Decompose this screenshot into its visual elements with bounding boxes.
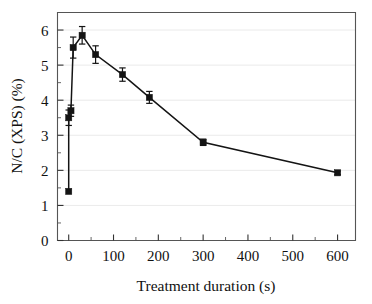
series-line	[69, 35, 338, 191]
x-tick-label: 400	[237, 248, 260, 264]
data-point-marker	[68, 108, 74, 114]
x-tick-label: 600	[326, 248, 349, 264]
y-axis-ticks	[58, 30, 64, 240]
y-tick-label: 1	[41, 198, 49, 214]
y-axis-tick-labels: 0123456	[41, 23, 49, 249]
data-point-marker	[70, 44, 76, 50]
data-point-marker	[66, 188, 72, 194]
data-point-marker	[119, 71, 125, 77]
x-tick-label: 100	[102, 248, 125, 264]
plot-frame	[58, 13, 356, 241]
y-tick-label: 3	[41, 128, 49, 144]
x-axis-ticks	[69, 235, 338, 241]
y-tick-label: 2	[41, 163, 49, 179]
grid-lines	[58, 30, 356, 205]
y-tick-label: 6	[41, 23, 49, 39]
data-point-marker	[146, 94, 152, 100]
data-point-marker	[66, 115, 72, 121]
data-point-marker	[79, 32, 85, 38]
y-tick-label: 5	[41, 58, 49, 74]
x-tick-label: 200	[147, 248, 170, 264]
nc-xps-vs-treatment-duration-chart: 0123456 0100200300400500600 Treatment du…	[0, 0, 372, 304]
chart-figure: 0123456 0100200300400500600 Treatment du…	[0, 0, 372, 304]
data-point-marker	[92, 51, 98, 57]
data-point-marker	[200, 139, 206, 145]
x-axis-tick-labels: 0100200300400500600	[65, 248, 349, 264]
x-tick-label: 0	[65, 248, 73, 264]
x-tick-label: 500	[282, 248, 305, 264]
data-series-group	[66, 27, 341, 195]
y-tick-label: 0	[41, 233, 49, 249]
x-axis-title: Treatment duration (s)	[137, 277, 276, 295]
x-tick-label: 300	[192, 248, 215, 264]
data-point-marker	[334, 170, 340, 176]
y-axis-title: N/C (XPS) (%)	[8, 78, 26, 174]
y-tick-label: 4	[41, 93, 49, 109]
